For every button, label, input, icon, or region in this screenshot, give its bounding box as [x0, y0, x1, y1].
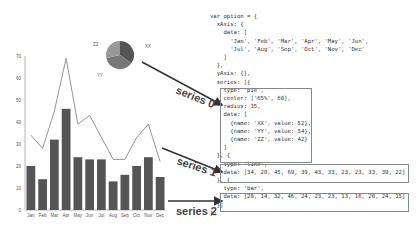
y-tick-label: 10: [16, 186, 22, 191]
bar: [97, 159, 106, 210]
x-tick-label: Jul: [98, 213, 104, 218]
pie-series-box: [220, 88, 312, 163]
x-tick-label: Oct: [133, 213, 141, 218]
y-tick-label: 20: [16, 164, 22, 169]
bar: [132, 166, 141, 210]
x-tick-label: May: [74, 213, 83, 218]
bar: [156, 177, 165, 210]
pie-label-zz: ZZ: [93, 42, 99, 47]
x-tick-label: Jan: [27, 213, 35, 218]
pie-label-yy: YY: [97, 73, 103, 78]
y-tick-label: 30: [16, 142, 22, 147]
bar: [74, 157, 83, 210]
bar-series-box: [220, 193, 409, 212]
y-tick-label: 50: [16, 98, 22, 103]
bar: [50, 140, 59, 210]
bar: [27, 166, 36, 210]
pie-label-xx: XX: [145, 44, 151, 49]
x-tick-label: Aug: [109, 213, 118, 218]
bar: [62, 109, 71, 210]
y-tick-label: 40: [16, 120, 22, 125]
bar: [144, 157, 153, 210]
x-tick-label: Dec: [156, 213, 165, 218]
bar: [38, 179, 47, 210]
bar: [109, 181, 118, 210]
x-tick-label: Mar: [51, 213, 59, 218]
bar: [121, 175, 130, 210]
bar: [85, 159, 94, 210]
x-tick-label: Feb: [39, 213, 47, 218]
pie-slice: [106, 41, 120, 58]
x-tick-label: Sep: [121, 213, 130, 218]
x-tick-label: Jun: [86, 213, 94, 218]
x-tick-label: Apr: [63, 213, 71, 218]
y-tick-label: 0: [18, 208, 21, 213]
y-tick-label: 60: [16, 76, 22, 81]
x-tick-label: Nov: [144, 213, 153, 218]
y-tick-label: 70: [16, 54, 22, 59]
line-series-box: [220, 164, 409, 183]
